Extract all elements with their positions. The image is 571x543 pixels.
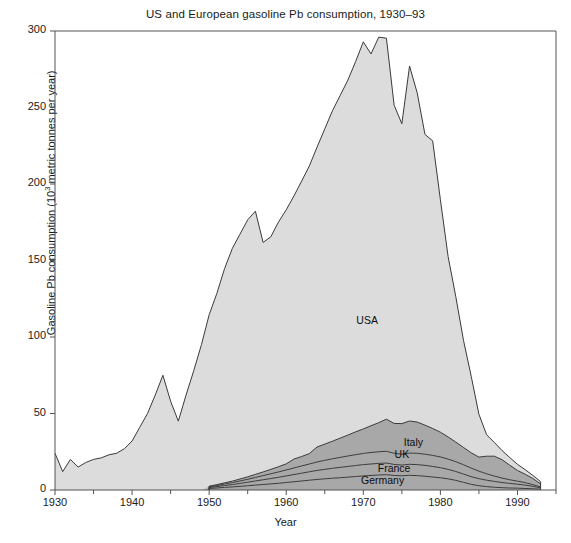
series-label-usa: USA <box>356 314 378 326</box>
y-tick-label: 50 <box>0 406 46 418</box>
y-tick-label: 200 <box>0 176 46 188</box>
area-band-usa <box>55 37 541 490</box>
x-tick-label: 1990 <box>487 496 547 508</box>
series-label-italy: Italy <box>404 436 423 448</box>
x-tick-label: 1940 <box>102 496 162 508</box>
plot-area <box>0 0 571 543</box>
x-tick-label: 1980 <box>410 496 470 508</box>
series-label-germany: Germany <box>361 474 404 486</box>
x-tick-label: 1970 <box>333 496 393 508</box>
series-label-uk: UK <box>395 448 410 460</box>
x-tick-label: 1960 <box>256 496 316 508</box>
y-tick-label: 100 <box>0 329 46 341</box>
chart-root: US and European gasoline Pb consumption,… <box>0 0 571 543</box>
y-tick-label: 0 <box>0 482 46 494</box>
y-tick-label: 250 <box>0 100 46 112</box>
x-tick-label: 1950 <box>179 496 239 508</box>
x-tick-label: 1930 <box>25 496 85 508</box>
series-label-france: France <box>378 462 411 474</box>
y-tick-label: 150 <box>0 253 46 265</box>
y-tick-label: 300 <box>0 23 46 35</box>
